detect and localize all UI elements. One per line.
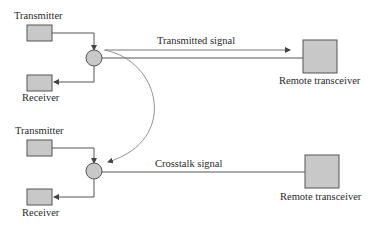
bottom-tx-line (52, 148, 94, 163)
transmitted-signal-label: Transmitted signal (157, 36, 235, 47)
top-receiver-box (27, 75, 52, 91)
bottom-transmitter-label: Transmitter (15, 126, 64, 137)
bottom-hybrid-circle (86, 163, 102, 179)
top-rx-line (54, 66, 94, 82)
bottom-receiver-box (27, 189, 52, 205)
crosstalk-signal-label: Crosstalk signal (155, 159, 222, 170)
bottom-transmitter-box (27, 140, 52, 156)
top-remote-transceiver-label: Remote transceiver (279, 76, 360, 87)
top-tx-line (52, 33, 94, 50)
bottom-rx-line (54, 179, 94, 197)
bottom-remote-transceiver-label: Remote transceiver (280, 192, 361, 203)
bottom-remote-transceiver-box (305, 155, 339, 188)
top-transmitter-label: Transmitter (14, 11, 63, 22)
top-receiver-label: Receiver (22, 93, 59, 104)
top-remote-transceiver-box (303, 40, 337, 73)
top-transmitter-box (27, 25, 52, 41)
top-hybrid-circle (86, 50, 102, 66)
crosstalk-coupling-arc (104, 50, 154, 162)
bottom-receiver-label: Receiver (22, 208, 59, 219)
